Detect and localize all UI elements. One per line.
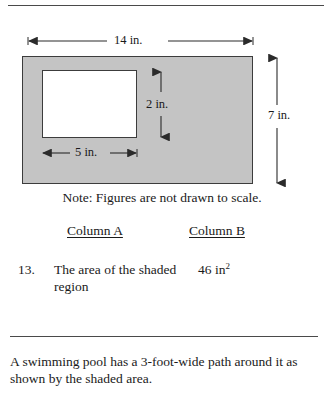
dimension-label-outer-width: 14 in. [114,34,142,47]
footer-paragraph: A swimming pool has a 3-foot-wide path a… [10,353,318,387]
worksheet-page: 14 in. 7 in. 2 in. 5 in. Note: Figures a… [0,0,324,417]
column-b-header: Column B [189,223,245,239]
divider-top [8,5,324,6]
question-number: 13. [18,261,35,278]
column-a-header: Column A [67,223,123,239]
figure-note: Note: Figures are not drawn to scale. [0,190,324,206]
divider-middle [10,336,318,337]
question-row: 13. The area of the shaded region 46 in2 [0,261,324,301]
column-b-exponent: 2 [225,261,230,271]
figure-shaded-region: 14 in. 7 in. 2 in. 5 in. [0,20,324,210]
dimension-label-outer-height: 7 in. [268,109,290,122]
question-column-a-text: The area of the shaded region [54,261,184,295]
dimension-label-inner-height: 2 in. [146,98,168,111]
comparison-headers: Column A Column B [0,223,324,243]
question-column-b-value: 46 in2 [198,261,230,278]
dimension-label-inner-width: 5 in. [75,146,97,159]
column-b-number: 46 in [198,262,225,277]
